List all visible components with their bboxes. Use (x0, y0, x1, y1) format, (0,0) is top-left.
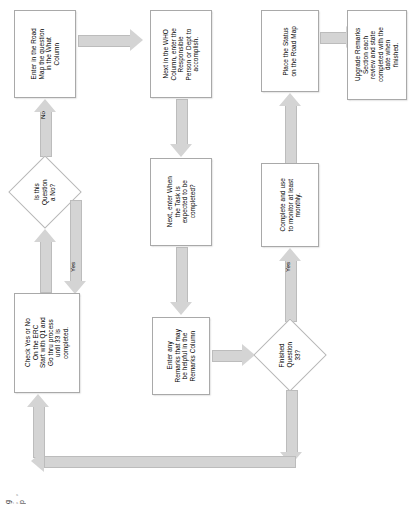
node-complete-monitor-label: Complete and use to monitor at least mon… (279, 178, 302, 231)
node-is-question-no-label: Is this Question a No? (33, 174, 56, 210)
node-place-status-label: Place the Status on the Road Map (282, 26, 297, 77)
arrow-finished-yes-to-complete-monitor (279, 248, 301, 320)
node-finished-q33-label: Finished Question 33? (278, 337, 301, 374)
node-upgrade-remarks: Upgrade Remarks Section each review and … (347, 10, 407, 100)
node-enter-when-label: Next, enter When the Task is expected to… (166, 176, 196, 227)
node-enter-who: Next in the WHO Column, enter the Respon… (150, 10, 212, 98)
edge-label-no: No (39, 111, 46, 119)
arrow-loop-horizontal-return (26, 449, 294, 473)
node-enter-remarks: Enter any Remarks that may be helpful in… (152, 317, 210, 395)
arrow-enter-question-to-enter-who (78, 29, 144, 51)
node-start: Check Yes or No On the ERC Start with Q1… (14, 293, 80, 393)
node-enter-who-label: Next in the WHO Column, enter the Respon… (162, 28, 200, 81)
node-upgrade-remarks-label: Upgrade Remarks Section each review and … (354, 27, 399, 82)
node-enter-question-label: Enter in the Road Map the question in th… (30, 28, 60, 79)
edge-label-yes-loop-back: Yes (69, 262, 76, 272)
node-enter-remarks-label: Enter any Remarks that may be helpful in… (166, 329, 196, 382)
arrow-enter-remarks-to-finished (212, 344, 258, 366)
arrow-complete-monitor-to-place-status (279, 93, 301, 163)
node-start-label: Check Yes or No On the ERC Start with Q1… (24, 317, 69, 368)
arrow-enter-when-to-enter-remarks (170, 247, 192, 315)
arrow-decision-yes-to-start (64, 200, 86, 294)
arrow-decision-no-to-enter-question (34, 99, 56, 155)
node-finished-q33: Finished Question 33? (254, 318, 326, 392)
node-enter-question: Enter in the Road Map the question in th… (14, 10, 76, 98)
flowchart-canvas: Enter in the Road Map the question in th… (0, 0, 412, 508)
footer-artifact-text: g ;, p (4, 484, 25, 504)
node-complete-monitor: Complete and use to monitor at least mon… (261, 163, 319, 247)
edge-label-yes-finished: Yes (284, 262, 291, 272)
arrow-loop-return-to-start (27, 394, 49, 456)
node-enter-when: Next, enter When the Task is expected to… (150, 158, 212, 246)
arrow-enter-who-to-enter-when (170, 99, 192, 157)
node-place-status: Place the Status on the Road Map (261, 10, 319, 92)
arrow-start-to-decision (34, 229, 56, 291)
